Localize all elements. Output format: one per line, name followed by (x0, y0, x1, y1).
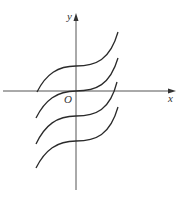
y-axis (74, 13, 79, 190)
origin-label: O (64, 93, 72, 105)
coordinate-diagram: y x O (0, 0, 181, 201)
y-axis-arrow-icon (74, 13, 79, 21)
y-axis-label: y (66, 10, 72, 22)
curve-2 (36, 58, 118, 118)
curve-1 (37, 32, 118, 92)
x-axis-label: x (167, 92, 173, 104)
